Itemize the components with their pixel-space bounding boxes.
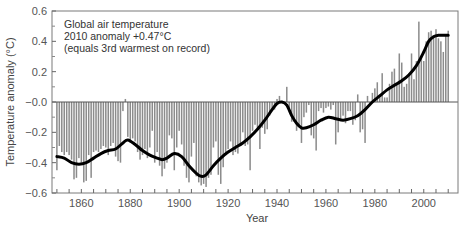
x-tick-label: 1940 bbox=[265, 197, 289, 209]
bar-1950 bbox=[301, 102, 303, 143]
bar-1869 bbox=[103, 102, 105, 146]
bar-1887 bbox=[147, 102, 149, 158]
bar-1923 bbox=[235, 102, 237, 152]
bar-1989 bbox=[396, 85, 398, 102]
bar-1890 bbox=[154, 102, 156, 163]
bar-1885 bbox=[142, 102, 144, 155]
bar-1915 bbox=[215, 102, 217, 141]
bar-1916 bbox=[218, 102, 220, 175]
bar-1966 bbox=[340, 102, 342, 120]
bar-1854 bbox=[66, 102, 68, 152]
bar-1964 bbox=[335, 102, 337, 144]
bar-1857 bbox=[73, 102, 75, 179]
x-tick-label: 1860 bbox=[69, 197, 93, 209]
bar-1995 bbox=[411, 53, 413, 102]
bar-2006 bbox=[438, 38, 440, 102]
bar-1889 bbox=[152, 102, 154, 131]
bar-1884 bbox=[139, 102, 141, 160]
bar-1952 bbox=[306, 102, 308, 113]
bar-2009 bbox=[445, 35, 447, 102]
y-tick-label: −0.6 bbox=[25, 187, 47, 199]
y-axis: 0.60.40.2−0.0−0.2−0.4−0.6 bbox=[25, 5, 56, 199]
bar-1913 bbox=[210, 102, 212, 175]
bar-1914 bbox=[213, 102, 215, 148]
y-tick-label: 0.4 bbox=[32, 35, 47, 47]
bar-1908 bbox=[198, 102, 200, 182]
bar-1891 bbox=[156, 102, 158, 152]
bar-1977 bbox=[367, 96, 369, 102]
y-tick-label: 0.6 bbox=[32, 5, 47, 17]
bar-1993 bbox=[406, 84, 408, 102]
bar-1899 bbox=[176, 102, 178, 148]
bar-1960 bbox=[325, 102, 327, 108]
bar-1876 bbox=[120, 102, 122, 163]
bar-1969 bbox=[347, 102, 349, 111]
bar-1905 bbox=[191, 102, 193, 157]
bar-1897 bbox=[171, 102, 173, 138]
bar-1902 bbox=[183, 102, 185, 166]
annotation-line-2: 2010 anomaly +0.47°C bbox=[64, 30, 172, 42]
bar-1882 bbox=[134, 102, 136, 141]
bar-1893 bbox=[161, 102, 163, 176]
bar-1895 bbox=[166, 102, 168, 163]
bar-1886 bbox=[144, 102, 146, 149]
bar-1868 bbox=[100, 102, 102, 149]
annotation-line-3: (equals 3rd warmest on record) bbox=[64, 42, 210, 54]
x-tick-label: 1880 bbox=[118, 197, 142, 209]
bar-1912 bbox=[208, 102, 210, 178]
y-tick-label: −0.4 bbox=[25, 157, 47, 169]
bar-1999 bbox=[421, 57, 423, 103]
bar-1852 bbox=[61, 102, 63, 152]
temperature-anomaly-chart: 0.60.40.2−0.0−0.2−0.4−0.6 18601880190019… bbox=[0, 0, 465, 229]
bar-2004 bbox=[433, 35, 435, 102]
bar-2000 bbox=[423, 61, 425, 102]
bar-1955 bbox=[313, 102, 315, 138]
bar-1906 bbox=[193, 102, 195, 143]
y-tick-label: 0.2 bbox=[32, 66, 47, 78]
bar-1888 bbox=[149, 102, 151, 148]
bar-1965 bbox=[337, 102, 339, 132]
bar-1877 bbox=[122, 102, 124, 111]
bar-1992 bbox=[403, 87, 405, 102]
bar-1920 bbox=[227, 102, 229, 149]
bar-1903 bbox=[186, 102, 188, 178]
bar-1864 bbox=[90, 102, 92, 178]
bar-1860 bbox=[81, 102, 83, 163]
bar-1984 bbox=[384, 97, 386, 102]
bar-1944 bbox=[286, 87, 288, 102]
bar-1910 bbox=[203, 102, 205, 184]
bar-1870 bbox=[105, 102, 107, 148]
bar-1855 bbox=[68, 102, 70, 155]
bar-1898 bbox=[174, 102, 176, 170]
x-axis-title: Year bbox=[246, 212, 269, 224]
bar-1983 bbox=[381, 73, 383, 102]
bar-1873 bbox=[112, 102, 114, 143]
y-tick-label: −0.2 bbox=[25, 126, 47, 138]
bar-2005 bbox=[435, 29, 437, 102]
bar-1858 bbox=[76, 102, 78, 178]
bar-2008 bbox=[443, 52, 445, 102]
bar-1973 bbox=[357, 94, 359, 102]
bar-1951 bbox=[303, 102, 305, 117]
bar-1866 bbox=[95, 102, 97, 151]
x-tick-label: 2000 bbox=[412, 197, 436, 209]
bar-1861 bbox=[83, 102, 85, 182]
bar-1959 bbox=[323, 102, 325, 113]
bar-1956 bbox=[315, 102, 317, 151]
bar-1907 bbox=[196, 102, 198, 176]
bar-1859 bbox=[78, 102, 80, 158]
bar-1850 bbox=[56, 102, 58, 170]
bar-1862 bbox=[85, 102, 87, 181]
bar-1853 bbox=[63, 102, 65, 155]
bar-1851 bbox=[59, 102, 61, 146]
bar-1872 bbox=[110, 102, 112, 146]
bar-1994 bbox=[408, 73, 410, 102]
bar-1931 bbox=[254, 102, 256, 125]
bar-1863 bbox=[88, 102, 90, 155]
bar-1879 bbox=[127, 102, 129, 137]
bar-1901 bbox=[181, 102, 183, 144]
bar-1881 bbox=[132, 102, 134, 138]
bar-1865 bbox=[93, 102, 95, 152]
bar-1970 bbox=[350, 102, 352, 111]
bar-1909 bbox=[200, 102, 202, 185]
